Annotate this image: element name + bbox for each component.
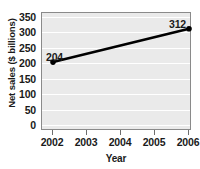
x-axis-tick-labels: 2002 2003 2004 2005 2006 — [0, 137, 200, 151]
data-label-2002: 204 — [46, 52, 63, 63]
x-tick — [52, 130, 53, 135]
y-axis-tick-labels: 350 300 250 200 150 100 50 0 — [0, 12, 39, 130]
x-tick — [188, 130, 189, 135]
y-tick-label: 50 — [0, 105, 36, 116]
y-tick-label: 200 — [0, 58, 36, 69]
y-tick-label: 150 — [0, 74, 36, 85]
y-tick-label: 0 — [0, 120, 36, 131]
y-tick-label: 300 — [0, 27, 36, 38]
x-tick — [86, 130, 87, 135]
y-tick-label: 250 — [0, 43, 36, 54]
plot-area: 204 312 — [41, 12, 191, 130]
data-series-svg — [42, 13, 192, 131]
line-chart: Net sales ($ billions) 350 300 250 200 1… — [0, 0, 200, 169]
x-tick — [154, 130, 155, 135]
data-point-marker — [186, 26, 192, 32]
x-axis-title: Year — [41, 153, 191, 164]
x-tick-label: 2006 — [166, 137, 200, 148]
x-tick — [120, 130, 121, 135]
data-label-2006: 312 — [169, 19, 186, 30]
y-tick-label: 100 — [0, 89, 36, 100]
series-line — [53, 29, 189, 62]
y-tick-label: 350 — [0, 12, 36, 23]
